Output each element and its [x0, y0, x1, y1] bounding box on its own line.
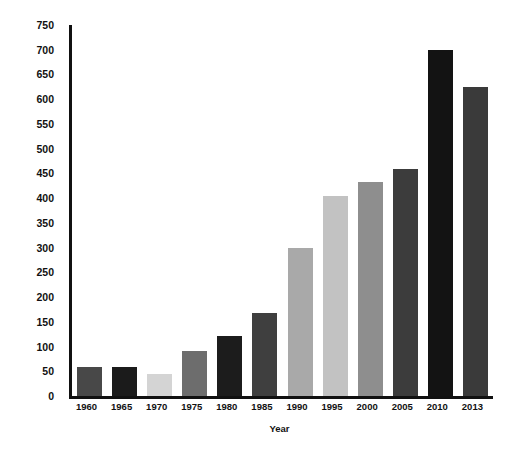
bar: [323, 196, 348, 396]
y-tick-label: 0: [48, 390, 54, 402]
bar: [217, 336, 242, 396]
x-tick-label: 1965: [109, 401, 134, 412]
bar: [182, 351, 207, 396]
y-tick-label: 100: [36, 341, 54, 353]
x-tick-label: 1995: [320, 401, 345, 412]
x-axis-ticks: 1960196519701975198019851990199520002005…: [69, 401, 490, 417]
bar: [463, 87, 488, 396]
x-tick-label: 2013: [460, 401, 485, 412]
bar: [112, 367, 137, 396]
y-tick-label: 50: [42, 365, 54, 377]
y-tick-label: 250: [36, 266, 54, 278]
y-tick-label: 600: [36, 93, 54, 105]
x-axis-label: Year: [69, 423, 490, 434]
bar: [288, 248, 313, 396]
x-tick-label: 1985: [249, 401, 274, 412]
y-tick-label: 300: [36, 242, 54, 254]
bar: [393, 169, 418, 396]
x-tick-label: 2005: [390, 401, 415, 412]
y-tick-label: 350: [36, 217, 54, 229]
x-tick-label: 1970: [144, 401, 169, 412]
y-tick-label: 500: [36, 143, 54, 155]
x-tick-label: 2000: [355, 401, 380, 412]
x-tick-label: 1960: [74, 401, 99, 412]
y-tick-label: 450: [36, 167, 54, 179]
x-tick-label: 1990: [285, 401, 310, 412]
y-tick-label: 700: [36, 44, 54, 56]
y-axis-ticks: 0501001502002503003504004505005506006507…: [0, 0, 64, 456]
y-tick-label: 150: [36, 316, 54, 328]
bar: [77, 367, 102, 396]
y-tick-label: 750: [36, 19, 54, 31]
bar: [428, 50, 453, 396]
bar-chart: Thousands of Commitments 050100150200250…: [0, 0, 516, 456]
y-tick-label: 400: [36, 192, 54, 204]
x-tick-label: 1975: [179, 401, 204, 412]
bar: [252, 313, 277, 396]
y-tick-label: 200: [36, 291, 54, 303]
bar-series: [72, 25, 493, 396]
bar: [358, 182, 383, 396]
y-tick-label: 550: [36, 118, 54, 130]
x-tick-label: 1980: [214, 401, 239, 412]
bar: [147, 374, 172, 396]
y-tick-label: 650: [36, 68, 54, 80]
x-tick-label: 2010: [425, 401, 450, 412]
plot-area: [69, 25, 493, 399]
